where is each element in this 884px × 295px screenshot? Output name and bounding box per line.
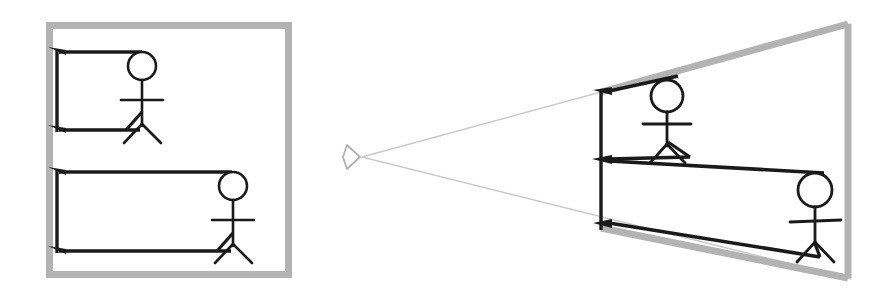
diagram-canvas [0, 0, 884, 295]
stick-figure-near [643, 80, 691, 163]
perspective-projection-rays [609, 76, 824, 257]
ray-top-far [609, 161, 824, 173]
orthographic-frame [50, 26, 289, 275]
perspective-projection-panel [343, 24, 851, 279]
frame-bottom-edge [601, 228, 848, 278]
figure-head [651, 80, 683, 112]
figure-arms [790, 220, 841, 222]
orthographic-projection-panel [48, 26, 289, 275]
orthographic-figure-joins [126, 112, 233, 251]
frame-top-edge [601, 24, 848, 92]
eye-lens [343, 145, 360, 169]
figure-head [798, 173, 832, 207]
figure-leg-right [233, 244, 252, 263]
projection-diagram [0, 0, 884, 295]
figure-head [219, 172, 247, 200]
view-frustum-rays [362, 24, 851, 279]
figure-leg-right [142, 124, 161, 143]
figure-leg-left [215, 244, 233, 263]
figure-leg-left [650, 144, 667, 163]
figure-head [128, 52, 156, 80]
eye-icon [343, 145, 360, 169]
orthographic-projection-rays [59, 52, 232, 251]
